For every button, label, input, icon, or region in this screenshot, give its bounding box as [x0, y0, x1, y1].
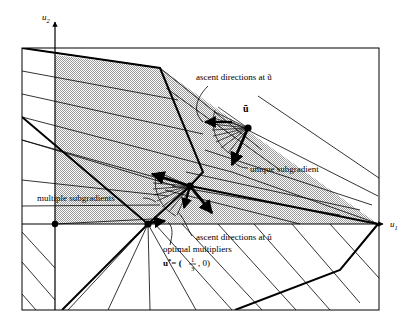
ridge-below-axis	[62, 224, 148, 310]
u-star-dot	[144, 220, 151, 227]
y-axis-subscript: 2	[47, 17, 51, 24]
x-axis-subscript: 1	[395, 224, 398, 231]
contour-line	[22, 262, 55, 300]
contour-line	[292, 224, 360, 303]
diagram-canvas: u2 u1 ascent directions at ũ ũ unique su…	[0, 0, 419, 329]
annotation-optimal-multipliers: optimal multipliers	[163, 244, 232, 254]
annotation-unique-subgradient: unique subgradient	[250, 164, 319, 174]
optimal-value-numerator: 1	[191, 256, 194, 263]
x-axis-label: u1	[390, 219, 398, 231]
contour-line	[22, 232, 55, 268]
leader-optimal-multipliers	[168, 222, 172, 245]
optimal-value-expression: u*= (	[163, 257, 182, 268]
optimal-value-eq: = (	[171, 258, 181, 268]
annotation-ascent-hat: ascent directions at û	[196, 232, 272, 242]
contour-line	[22, 294, 36, 310]
y-axis-label: u2	[42, 12, 51, 24]
annotation-multiple-subgradients: multiple subgradients	[37, 193, 115, 203]
u-tilde-label: ũ	[243, 103, 249, 114]
figure-root: u2 u1 ascent directions at ũ ũ unique su…	[0, 0, 419, 329]
annotation-ascent-tilde: ascent directions at ũ	[196, 72, 272, 82]
contour-line	[148, 224, 150, 310]
contour-line	[108, 224, 148, 310]
optimal-value-denominator: 3	[191, 265, 194, 272]
origin-dot	[52, 221, 58, 227]
optimal-value-rest: , 0)	[198, 258, 210, 268]
